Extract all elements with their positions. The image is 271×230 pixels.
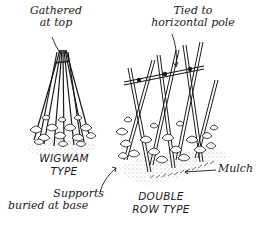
label-double-row-line2: ROW TYPE (126, 203, 196, 216)
label-mulch: Mulch (218, 163, 253, 175)
label-tied: Tied to horizontal pole (128, 5, 258, 29)
wigwam-illustration (28, 37, 96, 158)
tied-leader-line (172, 34, 177, 66)
label-double-row-line1: DOUBLE (126, 190, 196, 203)
pole-ties (137, 67, 192, 82)
label-gathered-line2: at top (26, 17, 86, 29)
label-wigwam-type: WIGWAM TYPE (34, 152, 94, 178)
label-tied-line2: horizontal pole (128, 17, 258, 29)
label-wigwam-line1: WIGWAM (34, 152, 94, 165)
wigwam-poles (34, 50, 90, 146)
bean-support-diagram: Gathered at top Tied to horizontal pole … (0, 0, 271, 230)
label-double-row-type: DOUBLE ROW TYPE (126, 190, 196, 216)
label-supports-line2: buried at base (8, 200, 104, 212)
label-wigwam-line2: TYPE (34, 165, 94, 178)
gathered-leader-line (52, 37, 60, 53)
label-gathered: Gathered at top (26, 5, 86, 29)
double-row-illustration (100, 34, 232, 192)
label-supports: Supports buried at base (8, 188, 104, 212)
